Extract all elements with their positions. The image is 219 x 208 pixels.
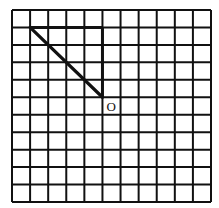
point-o-label: O: [106, 99, 115, 114]
grid-diagram: O: [0, 0, 219, 208]
